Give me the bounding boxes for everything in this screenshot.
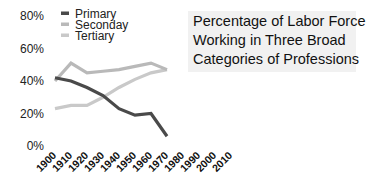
y-tick-label: 60%: [20, 42, 44, 56]
chart-title-line-2: Working in Three Broad: [193, 32, 346, 48]
legend: PrimarySecondayTertiary: [61, 7, 128, 43]
x-axis-ticks: 1900191019201930194019501960197019801990…: [33, 149, 234, 174]
legend-swatch-primary: [61, 12, 69, 16]
y-tick-label: 20%: [20, 107, 44, 121]
legend-swatch-tertiary: [61, 34, 69, 38]
chart-title-line-1: Percentage of Labor Force: [193, 13, 366, 29]
series-line-primary: [55, 78, 167, 137]
chart-title-box: Percentage of Labor Force Working in Thr…: [188, 11, 356, 72]
y-axis-ticks: 0%20%40%60%80%: [20, 9, 44, 153]
legend-swatch-seconday: [61, 23, 69, 27]
legend-label-tertiary: Tertiary: [75, 29, 114, 43]
y-tick-label: 0%: [27, 139, 45, 153]
y-tick-label: 40%: [20, 74, 44, 88]
y-tick-label: 80%: [20, 9, 44, 23]
plot-lines: [55, 63, 167, 136]
chart-title-line-3: Categories of Professions: [193, 51, 359, 67]
